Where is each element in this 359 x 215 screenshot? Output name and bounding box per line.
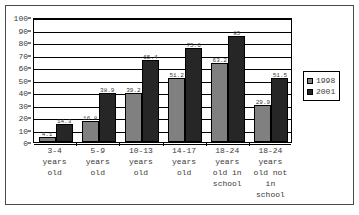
x-tick-mark [249,142,250,146]
y-tick-mark [28,105,31,106]
bar-value-label: 85 [233,30,240,37]
legend-item-2001: 2001 [307,86,335,97]
x-tick-label: 14-17 years old [163,145,206,178]
x-axis: 3-4 years old5-9 years old10-13 years ol… [33,145,292,197]
y-tick-mark [28,18,31,19]
bar-1998-0: 4.1 [39,137,56,142]
bar-group: 51.275.6 [164,19,207,142]
bar-value-label: 39.2 [126,87,140,94]
legend-swatch-icon-2001 [307,89,313,95]
y-tick-label: 10 [18,126,28,135]
bar-value-label: 4.1 [42,131,53,138]
chart-legend: 1998 2001 [303,71,340,101]
bar-value-label: 75.6 [186,42,200,49]
bar-group: 16.838.9 [77,19,120,142]
y-tick-label: 20 [18,114,28,123]
y-tick-label: 30 [18,101,28,110]
bar-2001-5: 51.5 [271,78,288,142]
y-tick-mark [28,43,31,44]
bar-value-label: 63.2 [213,57,227,64]
y-tick-label: 90 [18,26,28,35]
y-tick-label: 80 [18,39,28,48]
y-tick-mark [28,55,31,56]
x-tick-label: 10-13 years old [119,145,162,178]
x-tick-mark [119,142,120,146]
y-tick-mark [28,68,31,69]
bar-1998-3: 51.2 [168,78,185,142]
bar-value-label: 51.5 [273,72,287,79]
x-tick-mark [76,142,77,146]
y-tick-label: 50 [18,76,28,85]
legend-label-2001: 2001 [316,87,335,96]
bar-1998-4: 63.2 [211,63,228,142]
bar-value-label: 65.4 [143,54,157,61]
bar-group: 29.951.5 [250,19,293,142]
y-tick-mark [28,30,31,31]
bar-value-label: 38.9 [100,87,114,94]
plot-area: 4.114.316.838.939.265.451.275.663.28529.… [33,18,292,143]
y-tick-mark [28,118,31,119]
bar-2001-3: 75.6 [185,48,202,143]
legend-swatch-icon-1998 [307,78,313,84]
x-tick-mark [206,142,207,146]
bar-1998-1: 16.8 [82,121,99,142]
bar-2001-4: 85 [228,36,245,142]
bar-group: 63.285 [207,19,250,142]
bar-1998-5: 29.9 [254,105,271,142]
bars-layer: 4.114.316.838.939.265.451.275.663.28529.… [34,19,291,142]
x-tick-label: 5-9 years old [76,145,119,178]
chart-figure: 0102030405060708090100 4.114.316.838.939… [0,0,359,215]
y-tick-label: 60 [18,64,28,73]
bar-2001-1: 38.9 [99,93,116,142]
bar-value-label: 16.8 [83,115,97,122]
bar-2001-0: 14.3 [56,124,73,142]
bar-2001-2: 65.4 [142,60,159,142]
x-tick-label: 18-24 years old in school [206,145,249,189]
bar-value-label: 14.3 [57,118,71,125]
x-tick-mark [163,142,164,146]
y-tick-mark [28,143,31,144]
y-tick-label: 40 [18,89,28,98]
y-tick-mark [28,130,31,131]
legend-label-1998: 1998 [316,76,335,85]
y-axis: 0102030405060708090100 [5,18,31,143]
bar-value-label: 29.9 [256,99,270,106]
bar-group: 39.265.4 [120,19,163,142]
y-tick-label: 70 [18,51,28,60]
legend-item-1998: 1998 [307,75,335,86]
y-tick-label: 100 [14,14,28,23]
x-tick-label: 3-4 years old [33,145,76,178]
y-tick-mark [28,93,31,94]
bar-value-label: 51.2 [169,72,183,79]
bar-group: 4.114.3 [34,19,77,142]
x-tick-label: 18-24 years old not in school [249,145,292,200]
bar-1998-2: 39.2 [125,93,142,142]
y-tick-mark [28,80,31,81]
